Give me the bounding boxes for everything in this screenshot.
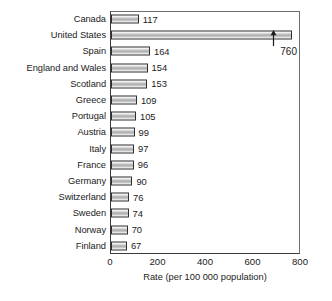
bar-row: Greece109 <box>0 92 332 108</box>
bar-and-value: 76 <box>111 193 143 202</box>
bar-and-value: 153 <box>111 79 167 88</box>
annotation-value-label: 760 <box>245 46 297 58</box>
bar-row: Switzerland76 <box>0 189 332 205</box>
bar-value-label: 105 <box>140 111 156 121</box>
category-label: Sweden <box>0 208 106 218</box>
category-label: Portugal <box>0 111 106 121</box>
bar-and-value: 99 <box>111 128 149 137</box>
bar-value-label: 97 <box>138 144 148 154</box>
category-label: United States <box>0 30 106 40</box>
bar-row: Norway70 <box>0 222 332 238</box>
bar <box>111 225 128 234</box>
bar-value-label: 74 <box>133 208 143 218</box>
category-label: Greece <box>0 95 106 105</box>
value-annotation-760: 760 <box>245 30 305 66</box>
bar <box>111 128 135 137</box>
bar-and-value: 90 <box>111 177 147 186</box>
bar <box>111 15 139 24</box>
bar-value-label: 76 <box>133 192 143 202</box>
bar <box>111 144 134 153</box>
bar-value-label: 67 <box>131 241 141 251</box>
x-tick-label: 0 <box>107 256 112 268</box>
bar-row: Germany90 <box>0 173 332 189</box>
x-tick-label: 200 <box>149 256 165 268</box>
bar-value-label: 164 <box>154 46 170 56</box>
category-label: Italy <box>0 144 106 154</box>
category-label: Austria <box>0 127 106 137</box>
bar <box>111 79 147 88</box>
category-label: Canada <box>0 14 106 24</box>
bar <box>111 241 127 250</box>
bar-row: Italy97 <box>0 141 332 157</box>
bar-and-value: 97 <box>111 144 148 153</box>
category-label: Scotland <box>0 79 106 89</box>
bar-and-value: 117 <box>111 15 158 24</box>
bar-value-label: 109 <box>141 95 157 105</box>
bar-value-label: 117 <box>143 14 158 24</box>
bar-value-label: 90 <box>136 176 146 186</box>
x-tick-label: 600 <box>244 256 260 268</box>
bar-value-label: 99 <box>139 127 149 137</box>
bar-value-label: 154 <box>152 63 168 73</box>
bar-and-value: 164 <box>111 47 170 56</box>
bar-chart-figure: Canada117United StatesSpain164England an… <box>0 0 332 301</box>
bar-row: Scotland153 <box>0 76 332 92</box>
bar <box>111 112 136 121</box>
bar-and-value: 109 <box>111 96 157 105</box>
bar-row: Austria99 <box>0 124 332 140</box>
bar-row: Sweden74 <box>0 205 332 221</box>
category-label: Norway <box>0 225 106 235</box>
bar-and-value: 74 <box>111 209 143 218</box>
category-label: France <box>0 160 106 170</box>
x-axis-title: Rate (per 100 000 population) <box>110 271 300 283</box>
bar-row: Portugal105 <box>0 108 332 124</box>
category-label: Germany <box>0 176 106 186</box>
bar <box>111 160 134 169</box>
category-label: Spain <box>0 46 106 56</box>
bar <box>111 193 129 202</box>
bar-and-value: 154 <box>111 63 167 72</box>
bar <box>111 177 132 186</box>
category-label: Switzerland <box>0 192 106 202</box>
bar <box>111 47 150 56</box>
bar <box>111 96 137 105</box>
bar <box>111 63 148 72</box>
bar-row: Finland67 <box>0 238 332 254</box>
x-tick-label: 400 <box>197 256 213 268</box>
bar-and-value: 67 <box>111 241 141 250</box>
bar-and-value: 105 <box>111 112 156 121</box>
bar-and-value: 96 <box>111 160 148 169</box>
bar-value-label: 70 <box>132 225 142 235</box>
bar-value-label: 96 <box>138 160 148 170</box>
bar-row: Canada117 <box>0 11 332 27</box>
bar-and-value: 70 <box>111 225 142 234</box>
x-axis-tick-labels: 0200400600800 <box>110 256 300 269</box>
arrow-up-icon <box>269 30 278 46</box>
bar-row: France96 <box>0 157 332 173</box>
bar <box>111 209 129 218</box>
x-tick-label: 800 <box>292 256 308 268</box>
category-label: England and Wales <box>0 63 106 73</box>
category-label: Finland <box>0 241 106 251</box>
bar-value-label: 153 <box>151 79 167 89</box>
